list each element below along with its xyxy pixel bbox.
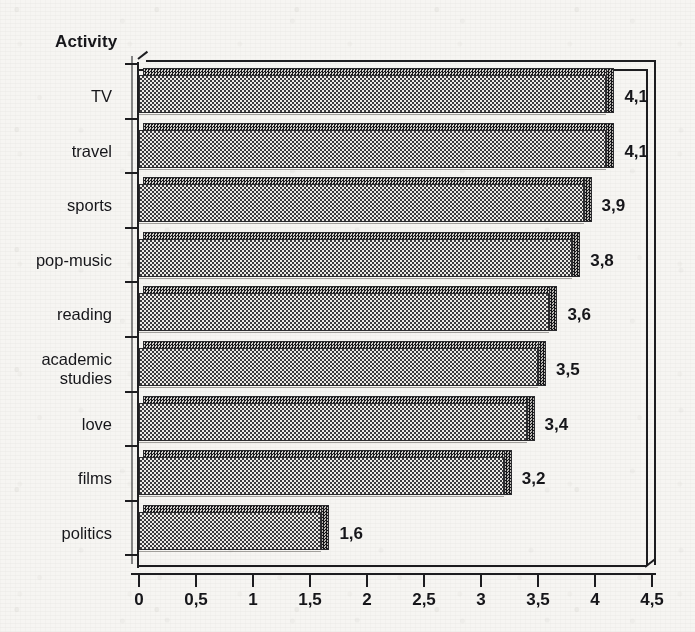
bar-top-face xyxy=(143,505,325,512)
bar-front-face xyxy=(139,239,572,277)
bar-baseline-rule xyxy=(139,442,527,443)
bar xyxy=(139,293,549,331)
x-axis-tick-label: 0,5 xyxy=(184,590,208,610)
x-axis-line xyxy=(131,573,656,575)
bar-top-face xyxy=(143,396,531,403)
x-axis-tick xyxy=(537,575,539,587)
bar-front-face xyxy=(139,184,584,222)
bar-baseline-rule xyxy=(139,387,538,388)
bar-baseline-rule xyxy=(139,332,549,333)
x-axis-tick xyxy=(309,575,311,587)
y-axis-tick xyxy=(125,281,138,283)
y-axis-tick xyxy=(125,336,138,338)
bar-top-face xyxy=(143,177,588,184)
bar-value-label: 3,2 xyxy=(522,469,546,489)
bar-end-cap xyxy=(538,341,546,386)
bar xyxy=(139,512,321,550)
plot-frame-right-edge xyxy=(654,60,656,565)
bar-end-cap xyxy=(606,123,614,168)
y-axis-category-label: pop-music xyxy=(36,250,112,269)
x-axis-tick-label: 0 xyxy=(134,590,143,610)
y-axis-category-label: reading xyxy=(57,305,112,324)
bar-baseline-rule xyxy=(139,223,584,224)
bar xyxy=(139,75,606,113)
y-axis-tick xyxy=(125,500,138,502)
bar-value-label: 3,8 xyxy=(590,251,614,271)
bar-baseline-rule xyxy=(139,114,606,115)
bar-baseline-rule xyxy=(139,278,572,279)
x-axis-tick xyxy=(138,575,140,587)
bar-value-label: 3,9 xyxy=(602,196,626,216)
x-axis-tick xyxy=(366,575,368,587)
x-axis-tick xyxy=(423,575,425,587)
x-axis-tick-label: 3 xyxy=(476,590,485,610)
bar-top-face xyxy=(143,450,508,457)
bar-top-face xyxy=(143,232,576,239)
bar xyxy=(139,403,527,441)
bar xyxy=(139,130,606,168)
y-axis-tick xyxy=(125,118,138,120)
bar-baseline-rule xyxy=(139,169,606,170)
x-axis-floor-line xyxy=(139,565,647,567)
plot-frame-depth-connector-top xyxy=(137,51,148,60)
y-axis-title: Activity xyxy=(55,32,117,52)
x-axis-tick-label: 4,5 xyxy=(640,590,664,610)
y-axis-tick xyxy=(125,227,138,229)
x-axis-tick xyxy=(651,575,653,587)
bar xyxy=(139,348,538,386)
x-axis-tick xyxy=(252,575,254,587)
y-axis-category-label: love xyxy=(82,414,112,433)
bar-baseline-rule xyxy=(139,496,504,497)
bar-front-face xyxy=(139,512,321,550)
plot-frame-top-edge xyxy=(146,60,656,62)
bar-end-cap xyxy=(606,68,614,113)
bar-top-face xyxy=(143,341,542,348)
bar-end-cap xyxy=(504,450,512,495)
x-axis-tick-label: 2,5 xyxy=(412,590,436,610)
x-axis-tick-label: 4 xyxy=(590,590,599,610)
bar-value-label: 3,6 xyxy=(567,305,591,325)
x-axis-tick-label: 1 xyxy=(248,590,257,610)
y-axis-category-label: academic studies xyxy=(41,350,112,388)
y-axis-tick xyxy=(125,172,138,174)
bar-front-face xyxy=(139,293,549,331)
bar-front-face xyxy=(139,457,504,495)
bar-end-cap xyxy=(321,505,329,550)
x-axis-tick xyxy=(480,575,482,587)
bar-end-cap xyxy=(572,232,580,277)
bar-top-face xyxy=(143,286,553,293)
x-axis-tick xyxy=(195,575,197,587)
bar-chart: Activity 4,14,13,93,83,63,53,43,21,6 TVt… xyxy=(0,0,695,632)
y-axis-tick xyxy=(125,391,138,393)
bar xyxy=(139,184,584,222)
bar-value-label: 4,1 xyxy=(624,142,648,162)
bar-front-face xyxy=(139,130,606,168)
y-axis-depth-edge xyxy=(131,56,133,564)
bar-front-face xyxy=(139,348,538,386)
y-axis-tick xyxy=(125,554,138,556)
y-axis-category-label: travel xyxy=(72,141,112,160)
bar xyxy=(139,457,504,495)
y-axis-tick xyxy=(125,63,138,65)
x-axis-tick xyxy=(594,575,596,587)
bar-baseline-rule xyxy=(139,551,321,552)
bar-top-face xyxy=(143,123,610,130)
bar-value-label: 3,4 xyxy=(545,415,569,435)
bar xyxy=(139,239,572,277)
bar-end-cap xyxy=(549,286,557,331)
bar-front-face xyxy=(139,75,606,113)
bar-top-face xyxy=(143,68,610,75)
y-axis-category-label: sports xyxy=(67,196,112,215)
bar-value-label: 4,1 xyxy=(624,87,648,107)
bar-end-cap xyxy=(527,396,535,441)
y-axis-category-label: TV xyxy=(91,87,112,106)
x-axis-tick-label: 3,5 xyxy=(526,590,550,610)
y-axis-category-label: politics xyxy=(62,523,112,542)
bar-end-cap xyxy=(584,177,592,222)
x-axis-tick-label: 1,5 xyxy=(298,590,322,610)
bar-value-label: 3,5 xyxy=(556,360,580,380)
y-axis-tick xyxy=(125,445,138,447)
bar-front-face xyxy=(139,403,527,441)
x-axis-tick-label: 2 xyxy=(362,590,371,610)
bar-value-label: 1,6 xyxy=(339,524,363,544)
